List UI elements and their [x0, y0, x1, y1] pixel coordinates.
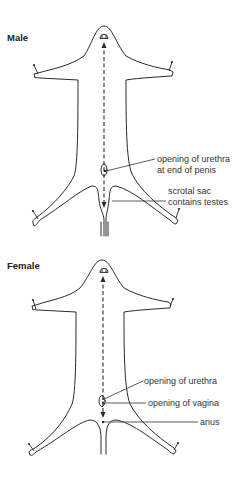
- male-penis-label: at end of penis: [157, 165, 216, 176]
- female-rat-outline-icon: [0, 238, 235, 478]
- male-panel: Male opening of urethra at end of penis …: [0, 0, 235, 238]
- female-urethra-label: opening of urethra: [144, 376, 217, 387]
- female-panel: Female opening of urethra opening of vag…: [0, 238, 235, 478]
- male-testes-label: contains testes: [168, 197, 228, 208]
- female-anus-label: anus: [200, 417, 220, 428]
- male-scrotal-label: scrotal sac: [168, 186, 211, 197]
- female-vagina-label: opening of vagina: [148, 398, 219, 409]
- male-urethra-label: opening of urethra: [157, 154, 230, 165]
